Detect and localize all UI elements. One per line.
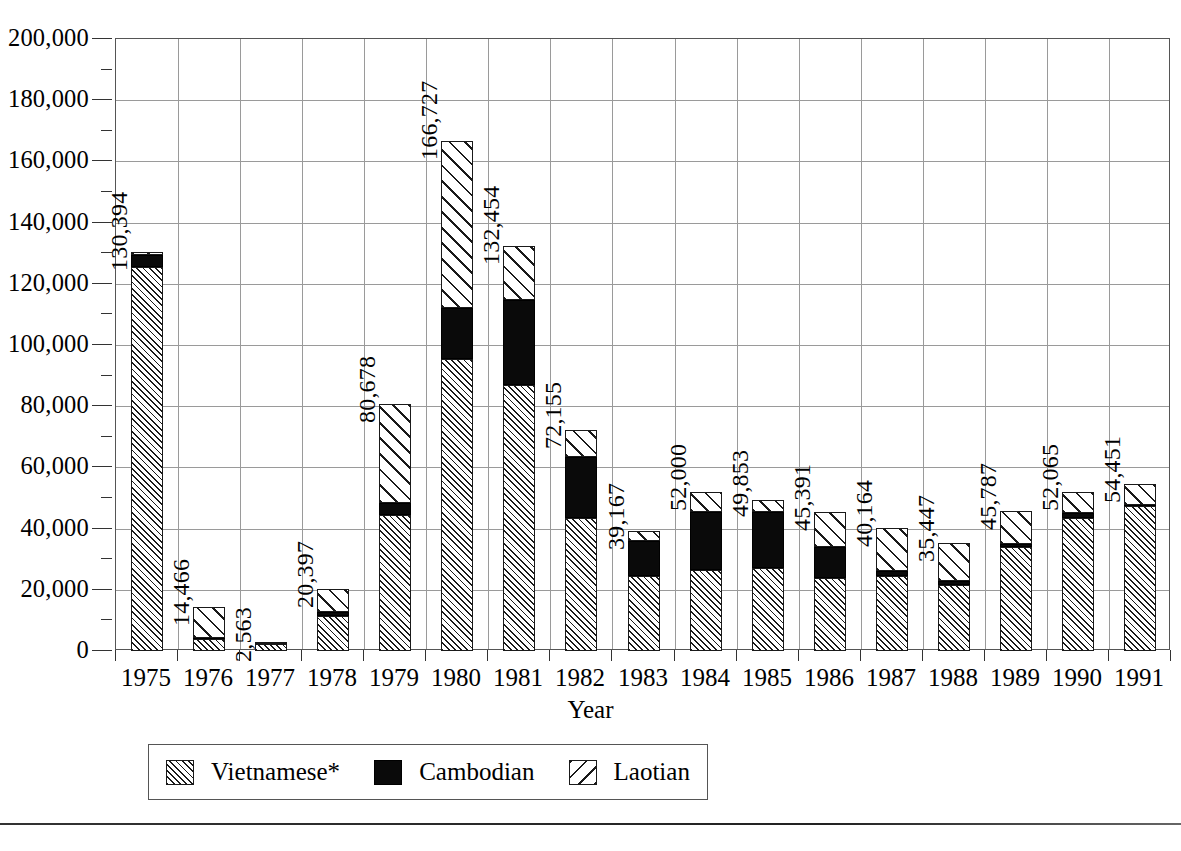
bar-segment-cambodian <box>441 308 473 358</box>
bar-value-label: 49,853 <box>727 450 754 517</box>
y-tick-minor <box>101 375 112 376</box>
bar-segment-vietnamese <box>1000 547 1032 651</box>
y-axis: 020,00040,00060,00080,000100,000120,0001… <box>0 38 115 650</box>
bar-stack-1985 <box>752 498 784 651</box>
bar-segment-laotian <box>131 252 163 255</box>
y-tick-label: 160,000 <box>8 146 89 174</box>
bar-segment-vietnamese <box>876 576 908 651</box>
chart-figure: 020,00040,00060,00080,000100,000120,0001… <box>0 0 1181 851</box>
x-tick-label: 1984 <box>680 664 730 692</box>
legend-item-laotian[interactable]: Laotian <box>569 758 690 786</box>
bar-segment-vietnamese <box>503 385 535 651</box>
bar-segment-cambodian <box>752 512 784 569</box>
bar-segment-laotian <box>317 589 349 613</box>
x-tick-label: 1982 <box>555 664 605 692</box>
bar-segment-cambodian <box>131 255 163 267</box>
bar-value-label: 132,454 <box>478 185 505 264</box>
bar-value-label: 20,397 <box>292 540 319 607</box>
bar-series-group: 130,39414,4662,56320,39780,678166,727132… <box>116 39 1171 651</box>
legend-label: Vietnamese* <box>211 758 340 786</box>
x-tick-label: 1987 <box>866 664 916 692</box>
chart-legend: Vietnamese*CambodianLaotian <box>148 744 708 800</box>
bar-stack-1991 <box>1124 484 1156 651</box>
y-tick-label: 60,000 <box>20 452 89 480</box>
y-tick-label: 200,000 <box>8 24 89 52</box>
y-tick-minor <box>101 558 112 559</box>
bar-segment-vietnamese <box>131 267 163 651</box>
x-tick <box>1108 650 1109 661</box>
y-tick-label: 80,000 <box>20 391 89 419</box>
y-tick-label: 20,000 <box>20 575 89 603</box>
bar-segment-laotian <box>193 607 225 638</box>
y-tick-label: 40,000 <box>20 514 89 542</box>
bar-segment-cambodian <box>379 503 411 515</box>
bar-stack-1987 <box>876 528 908 651</box>
x-tick-label: 1981 <box>493 664 543 692</box>
bar-value-label: 14,466 <box>168 559 195 626</box>
y-tick-major <box>92 589 112 590</box>
bar-stack-1975 <box>131 252 163 651</box>
x-tick-label: 1977 <box>245 664 295 692</box>
bar-stack-1990 <box>1062 492 1094 651</box>
bar-segment-vietnamese <box>565 518 597 651</box>
bar-segment-cambodian <box>1000 544 1032 547</box>
bar-segment-laotian <box>814 512 846 547</box>
bar-segment-laotian <box>255 642 287 644</box>
y-tick-minor <box>101 619 112 620</box>
y-tick-major <box>92 466 112 467</box>
bar-segment-cambodian <box>317 612 349 615</box>
bar-segment-laotian <box>379 404 411 503</box>
y-tick-label: 120,000 <box>8 269 89 297</box>
x-axis: 1975197619771978197919801981198219831984… <box>115 650 1170 696</box>
bar-segment-cambodian <box>690 512 722 570</box>
bar-segment-cambodian <box>503 300 535 386</box>
y-tick-major <box>92 38 112 39</box>
y-tick-major <box>92 650 112 651</box>
bar-stack-1989 <box>1000 511 1032 651</box>
x-tick <box>239 650 240 661</box>
y-tick-minor <box>101 313 112 314</box>
bar-segment-vietnamese <box>441 359 473 651</box>
bar-stack-1978 <box>317 589 349 651</box>
bar-value-label: 72,155 <box>540 382 567 449</box>
x-tick-label: 1990 <box>1052 664 1102 692</box>
bar-segment-vietnamese <box>628 576 660 651</box>
x-tick-label: 1980 <box>431 664 481 692</box>
x-tick <box>860 650 861 661</box>
bar-value-label: 80,678 <box>354 356 381 423</box>
y-tick-label: 180,000 <box>8 85 89 113</box>
y-tick-major <box>92 160 112 161</box>
x-axis-title: Year <box>0 696 1181 724</box>
bar-value-label: 45,391 <box>789 464 816 531</box>
x-tick <box>115 650 116 661</box>
coarse-hatch-icon <box>569 760 597 785</box>
x-tick-label: 1988 <box>928 664 978 692</box>
bar-segment-vietnamese <box>1124 506 1156 651</box>
bar-segment-laotian <box>1124 484 1156 504</box>
legend-label: Laotian <box>614 758 690 786</box>
page-rule <box>0 823 1181 825</box>
dense-hatch-icon <box>166 760 194 785</box>
plot-area: 130,39414,4662,56320,39780,678166,727132… <box>115 38 1170 650</box>
bar-stack-1983 <box>628 531 660 651</box>
bar-segment-vietnamese <box>317 616 349 651</box>
bar-segment-vietnamese <box>752 568 784 651</box>
x-tick <box>363 650 364 661</box>
bar-value-label: 130,394 <box>106 192 133 271</box>
bar-stack-1982 <box>565 430 597 651</box>
x-tick-label: 1978 <box>307 664 357 692</box>
bar-segment-laotian <box>1000 511 1032 544</box>
bar-segment-vietnamese <box>379 515 411 651</box>
bar-segment-laotian <box>690 492 722 512</box>
x-tick <box>736 650 737 661</box>
bar-stack-1979 <box>379 404 411 651</box>
bar-segment-laotian <box>938 543 970 581</box>
legend-item-vietnamese[interactable]: Vietnamese* <box>166 758 340 786</box>
bar-value-label: 52,000 <box>665 444 692 511</box>
legend-label: Cambodian <box>419 758 534 786</box>
legend-item-cambodian[interactable]: Cambodian <box>374 758 534 786</box>
x-tick-label: 1985 <box>742 664 792 692</box>
bar-value-label: 45,787 <box>975 463 1002 530</box>
bar-segment-laotian <box>565 430 597 456</box>
x-tick <box>922 650 923 661</box>
